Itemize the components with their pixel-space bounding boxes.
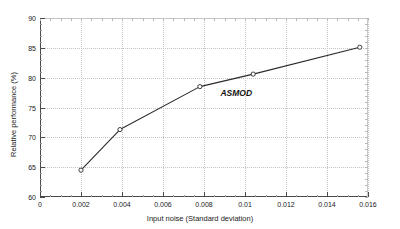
x-tick-mark	[368, 192, 369, 197]
x-tick-label: 0.006	[154, 201, 172, 208]
x-axis-title: Input noise (Standard deviation)	[0, 214, 400, 223]
y-tick-label: 85	[18, 44, 36, 51]
x-tick-label: 0.002	[72, 201, 90, 208]
y-axis-title-wrapper: Relative performance (%)	[8, 0, 20, 229]
x-tick-label: 0.016	[359, 201, 377, 208]
x-tick-label: 0.004	[113, 201, 131, 208]
data-point-marker[interactable]	[118, 127, 122, 131]
data-point-marker[interactable]	[198, 85, 202, 89]
y-tick-label: 90	[18, 15, 36, 22]
plot-area: ASMOD	[40, 18, 368, 197]
y-tick-mark	[40, 197, 45, 198]
x-tick-label: 0.01	[238, 201, 252, 208]
series-line-asmod	[81, 47, 360, 170]
data-point-marker[interactable]	[358, 45, 362, 49]
x-tick-label: 0.008	[195, 201, 213, 208]
y-axis-title: Relative performance (%)	[10, 72, 19, 157]
series-annotation-label: ASMOD	[220, 88, 252, 98]
minor-tick-right	[365, 197, 368, 198]
y-tick-label: 70	[18, 134, 36, 141]
y-tick-label: 80	[18, 74, 36, 81]
data-series-layer	[40, 18, 368, 197]
y-tick-label: 75	[18, 104, 36, 111]
data-point-marker[interactable]	[79, 168, 83, 172]
figure-canvas: ASMOD 00.0020.0040.0060.0080.010.0120.01…	[0, 0, 400, 229]
x-tick-label: 0	[38, 201, 42, 208]
y-tick-label: 65	[18, 164, 36, 171]
x-tick-label: 0.014	[318, 201, 336, 208]
y-tick-label: 60	[18, 194, 36, 201]
data-point-marker[interactable]	[251, 72, 255, 76]
x-tick-label: 0.012	[277, 201, 295, 208]
minor-tick-top	[368, 18, 369, 21]
gridline-vertical	[368, 18, 369, 197]
